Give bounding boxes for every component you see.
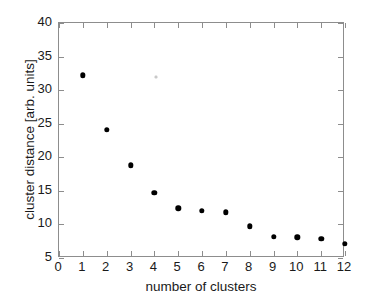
data-point-1 (80, 73, 85, 78)
y-tick-label-5: 5 (20, 250, 52, 264)
y-tick-label-20: 20 (20, 149, 52, 163)
x-tick-7 (226, 251, 227, 256)
x-tick-6 (202, 251, 203, 256)
y-tick-label-40: 40 (20, 15, 52, 29)
x-tick-4 (154, 251, 155, 256)
x-tick-top-5 (178, 23, 179, 28)
y-tick-35 (59, 57, 64, 58)
x-tick-11 (321, 251, 322, 256)
x-tick-8 (250, 251, 251, 256)
data-point-10 (295, 234, 300, 239)
x-tick-label-12: 12 (329, 260, 359, 274)
data-point-12 (342, 241, 347, 246)
y-tick-label-15: 15 (20, 183, 52, 197)
x-axis-title: number of clusters (58, 279, 344, 294)
x-tick-12 (345, 251, 346, 256)
x-tick-top-12 (345, 23, 346, 28)
y-tick-right-25 (338, 124, 343, 125)
figure-canvas: cluster distance [arb. units] number of … (0, 0, 367, 302)
x-tick-0 (59, 251, 60, 256)
data-point-2 (104, 127, 109, 132)
x-tick-top-1 (83, 23, 84, 28)
data-point-5 (175, 206, 180, 211)
data-point-4 (152, 190, 157, 195)
y-tick-15 (59, 191, 64, 192)
x-tick-top-2 (107, 23, 108, 28)
y-tick-10 (59, 224, 64, 225)
y-tick-right-20 (338, 157, 343, 158)
y-tick-right-35 (338, 57, 343, 58)
y-tick-right-40 (338, 23, 343, 24)
data-point-11 (318, 236, 323, 241)
x-tick-3 (131, 251, 132, 256)
y-tick-right-15 (338, 191, 343, 192)
x-tick-10 (297, 251, 298, 256)
y-tick-40 (59, 23, 64, 24)
y-tick-30 (59, 90, 64, 91)
y-tick-label-10: 10 (20, 216, 52, 230)
x-tick-5 (178, 251, 179, 256)
x-tick-top-6 (202, 23, 203, 28)
x-tick-top-4 (154, 23, 155, 28)
data-point-9 (271, 234, 276, 239)
data-point-3 (128, 163, 133, 168)
y-tick-20 (59, 157, 64, 158)
x-tick-top-3 (131, 23, 132, 28)
scan-speck (154, 75, 157, 78)
y-tick-label-30: 30 (20, 82, 52, 96)
x-tick-2 (107, 251, 108, 256)
x-tick-top-7 (226, 23, 227, 28)
x-tick-top-9 (274, 23, 275, 28)
y-tick-label-25: 25 (20, 116, 52, 130)
x-tick-top-8 (250, 23, 251, 28)
data-point-8 (247, 224, 252, 229)
data-point-7 (223, 210, 228, 215)
x-tick-top-11 (321, 23, 322, 28)
x-tick-9 (274, 251, 275, 256)
x-tick-1 (83, 251, 84, 256)
x-tick-top-10 (297, 23, 298, 28)
y-tick-right-10 (338, 224, 343, 225)
y-tick-right-30 (338, 90, 343, 91)
plot-area (58, 22, 344, 257)
data-point-6 (199, 208, 204, 213)
y-tick-25 (59, 124, 64, 125)
y-tick-label-35: 35 (20, 49, 52, 63)
